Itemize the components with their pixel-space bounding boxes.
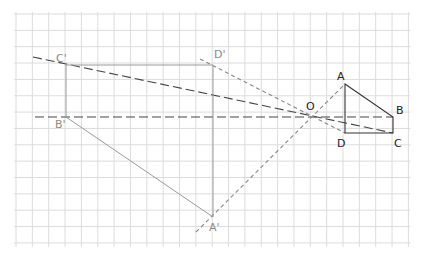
label-b: B: [396, 104, 404, 117]
original-shape-abcd: [345, 84, 393, 133]
label-b1: B': [55, 118, 66, 131]
label-d1: D': [214, 48, 226, 61]
point-labels: ABCDOA'B'C'D': [55, 48, 404, 234]
label-d: D: [337, 137, 345, 150]
enlargement-diagram: ABCDOA'B'C'D': [0, 0, 421, 253]
grid: [14, 12, 410, 247]
label-o: O: [306, 100, 315, 113]
label-c: C: [394, 137, 402, 150]
label-c1: C': [56, 52, 67, 65]
shape-abcd: [345, 84, 393, 133]
label-a: A: [337, 70, 345, 83]
label-a1: A': [209, 221, 220, 234]
